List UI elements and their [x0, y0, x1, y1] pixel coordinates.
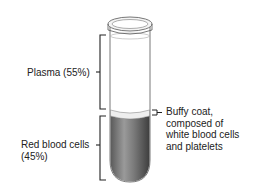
rbc-label: Red blood cells (45%) — [21, 139, 89, 162]
buffy-bracket — [152, 110, 162, 115]
rbc-label-line1: Red blood cells — [21, 139, 89, 151]
test-tube — [108, 17, 152, 182]
buffy-label-line4: and platelets — [166, 141, 239, 153]
rbc-bracket — [96, 116, 106, 180]
buffy-label-line1: Buffy coat, — [166, 106, 239, 118]
rbc-label-line2: (45%) — [21, 151, 89, 163]
plasma-label: Plasma (55%) — [27, 67, 90, 79]
plasma-bracket — [96, 35, 106, 109]
buffy-coat-label: Buffy coat, composed of white blood cell… — [166, 106, 239, 152]
buffy-label-line2: composed of — [166, 118, 239, 130]
red-blood-cell-layer — [111, 116, 150, 182]
blood-tube-diagram — [0, 0, 256, 192]
buffy-label-line3: white blood cells — [166, 129, 239, 141]
